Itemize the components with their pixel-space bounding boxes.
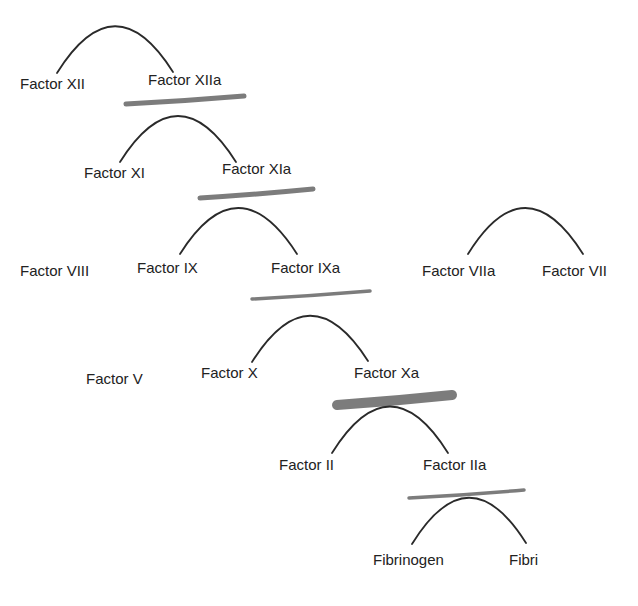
arc-fibrinogen-to-fibrin bbox=[412, 498, 526, 544]
arc-factor-ii-to-factor-iia bbox=[332, 407, 448, 454]
conversion-arcs-layer bbox=[0, 0, 638, 606]
arc-factor-ix-to-factor-ixa bbox=[180, 208, 297, 254]
label-factor-ii: Factor II bbox=[279, 457, 334, 472]
label-factor-ix: Factor IX bbox=[137, 260, 198, 275]
label-factor-xa: Factor Xa bbox=[354, 365, 419, 380]
label-fibrin: Fibri bbox=[509, 552, 538, 567]
arc-factor-x-to-factor-xa bbox=[252, 316, 368, 362]
label-factor-xiia: Factor XIIa bbox=[148, 72, 221, 87]
label-factor-viia: Factor VIIa bbox=[422, 263, 495, 278]
label-factor-x: Factor X bbox=[201, 365, 258, 380]
arc-factor-viia-to-factor-vii bbox=[468, 208, 583, 254]
label-factor-viii: Factor VIII bbox=[20, 263, 89, 278]
label-factor-ixa: Factor IXa bbox=[271, 260, 340, 275]
label-factor-iia: Factor IIa bbox=[423, 457, 486, 472]
label-factor-v: Factor V bbox=[86, 371, 143, 386]
label-fibrinogen: Fibrinogen bbox=[373, 552, 444, 567]
label-factor-xii: Factor XII bbox=[20, 76, 85, 91]
label-factor-xia: Factor XIa bbox=[222, 161, 291, 176]
arc-factor-xii-to-factor-xiia bbox=[57, 26, 173, 73]
arc-factor-xi-to-factor-xia bbox=[120, 116, 236, 162]
label-factor-vii: Factor VII bbox=[542, 263, 607, 278]
coagulation-cascade-diagram: Factor XIIFactor XIIaFactor XIFactor XIa… bbox=[0, 0, 638, 606]
label-factor-xi: Factor XI bbox=[84, 165, 145, 180]
